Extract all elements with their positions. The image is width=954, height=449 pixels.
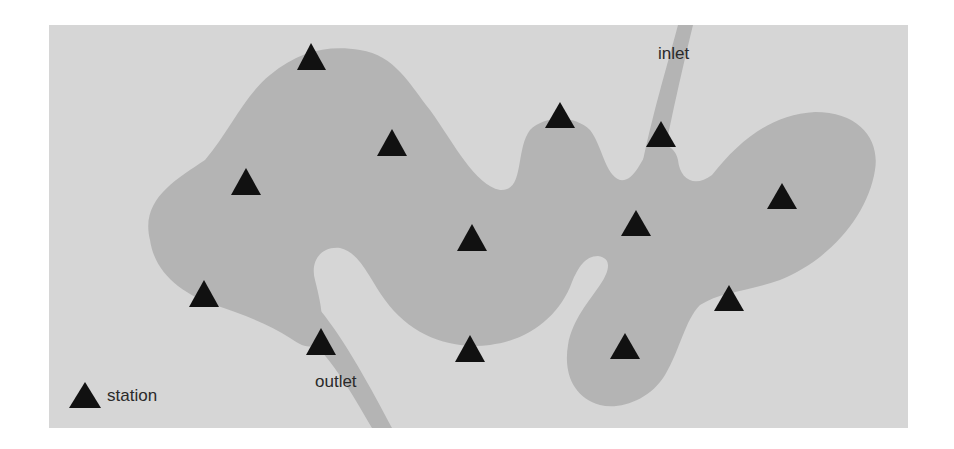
inlet-label: inlet: [658, 44, 689, 63]
legend-station-label: station: [107, 386, 157, 405]
outlet-label: outlet: [315, 372, 357, 391]
lake-map: inlet outlet station: [0, 0, 954, 449]
